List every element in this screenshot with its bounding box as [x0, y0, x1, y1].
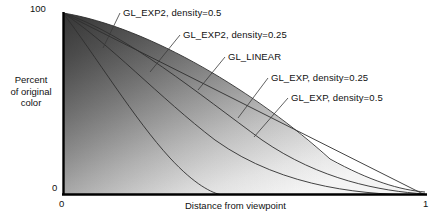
y-axis-title-line-3: color [2, 97, 60, 109]
y-axis-title-line-1: Percent [2, 74, 60, 86]
y-axis-title: Percent of original color [2, 74, 60, 109]
annotation-exp-05: GL_EXP, density=0.5 [291, 92, 383, 103]
annotation-exp-025: GL_EXP, density=0.25 [271, 72, 368, 83]
x-tick-label-1: 1 [423, 198, 428, 209]
x-axis-title: Distance from viewpoint [185, 200, 286, 211]
annotation-exp2-025: GL_EXP2, density=0.25 [183, 29, 287, 40]
y-tick-label-0: 0 [52, 182, 57, 193]
y-axis-title-line-2: of original [2, 86, 60, 98]
fog-curves-figure: Percent of original color 100 0 0 1 Dist… [0, 0, 429, 224]
x-tick-label-0: 0 [59, 198, 64, 209]
annotation-linear: GL_LINEAR [228, 51, 281, 62]
annotation-exp2-05: GL_EXP2, density=0.5 [123, 7, 221, 18]
y-tick-label-100: 100 [30, 3, 46, 14]
